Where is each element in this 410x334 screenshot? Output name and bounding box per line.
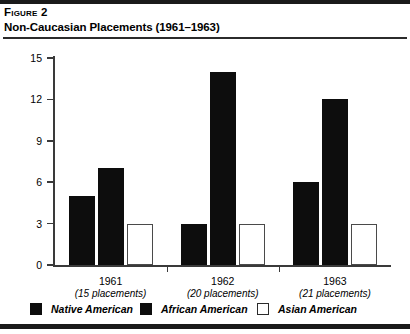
- y-axis-tick-label: 12: [12, 94, 42, 104]
- x-axis-group-label: 1961(15 placements): [55, 275, 167, 300]
- bar: [322, 99, 348, 265]
- y-axis-tick-label: 0: [12, 260, 42, 270]
- legend-item: Asian American: [257, 303, 357, 315]
- y-axis-tick: [47, 181, 53, 183]
- bar: [127, 224, 153, 265]
- x-axis-group-count: (15 placements): [55, 288, 167, 300]
- y-axis-line: [53, 56, 55, 266]
- y-axis-tick-label: 3: [12, 219, 42, 229]
- bar: [69, 196, 95, 265]
- legend-swatch-icon: [257, 303, 269, 315]
- y-axis-tick: [47, 140, 53, 142]
- bar: [210, 72, 236, 265]
- title-divider-rule: [3, 37, 407, 39]
- bottom-divider-rule: [0, 324, 410, 329]
- bar: [98, 168, 124, 265]
- legend-swatch-icon: [140, 303, 152, 315]
- y-axis-tick: [47, 57, 53, 59]
- bar: [293, 182, 319, 265]
- legend-swatch-icon: [30, 303, 42, 315]
- legend-item-label: African American: [161, 303, 248, 315]
- x-axis-group-label: 1962(20 placements): [167, 275, 279, 300]
- x-axis-tick: [167, 266, 169, 272]
- x-axis-group-label: 1963(21 placements): [279, 275, 391, 300]
- x-axis-group-count: (21 placements): [279, 288, 391, 300]
- bar-chart-plot: 03691215 1961(15 placements)1962(20 plac…: [0, 42, 410, 300]
- legend-item: African American: [140, 303, 248, 315]
- y-axis-tick: [47, 264, 53, 266]
- legend-item: Native American: [30, 303, 133, 315]
- legend-item-label: Native American: [51, 303, 133, 315]
- top-divider-rule: [0, 0, 410, 4]
- x-axis-line: [53, 265, 391, 267]
- chart-legend: Native AmericanAfrican AmericanAsian Ame…: [0, 303, 410, 321]
- x-axis-group-year: 1962: [167, 275, 279, 287]
- bar: [239, 224, 265, 265]
- legend-item-label: Asian American: [278, 303, 357, 315]
- bar: [351, 224, 377, 265]
- y-axis-tick-label: 9: [12, 136, 42, 146]
- y-axis-tick: [47, 223, 53, 225]
- x-axis-group-count: (20 placements): [167, 288, 279, 300]
- bar: [181, 224, 207, 265]
- y-axis-tick: [47, 99, 53, 101]
- x-axis-group-year: 1963: [279, 275, 391, 287]
- figure-heading: Figure 2 Non-Caucasian Placements (1961–…: [4, 6, 406, 34]
- figure-title: Non-Caucasian Placements (1961–1963): [4, 20, 406, 34]
- x-axis-group-year: 1961: [55, 275, 167, 287]
- x-axis-tick: [279, 266, 281, 272]
- y-axis-tick-label: 15: [12, 53, 42, 63]
- y-axis-tick-label: 6: [12, 177, 42, 187]
- figure-label: Figure 2: [4, 6, 406, 19]
